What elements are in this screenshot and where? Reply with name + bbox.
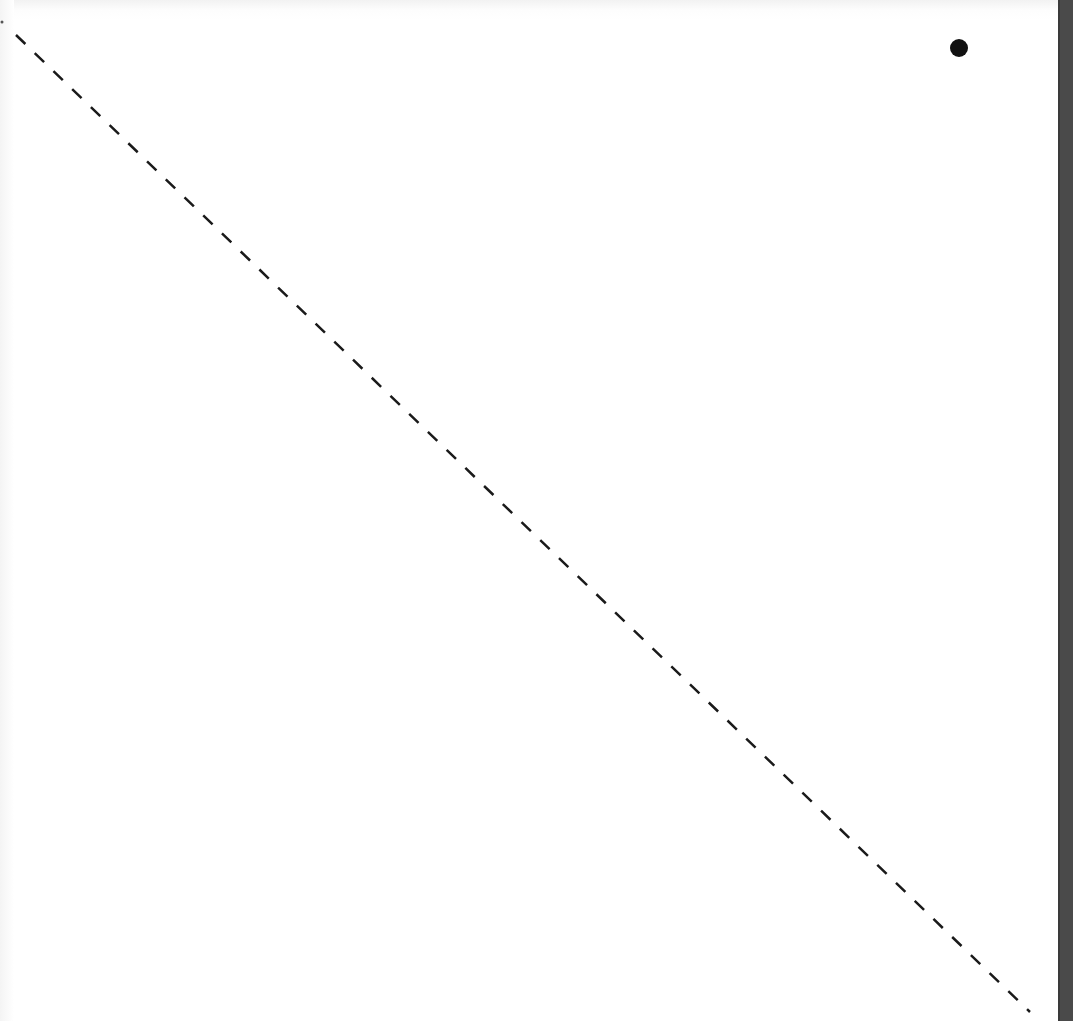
dashed-diagonal-line	[16, 35, 1030, 1012]
small-corner-mark	[1, 21, 4, 24]
black-dot-point	[950, 39, 968, 57]
right-edge-dark-strip	[1058, 0, 1073, 1021]
paper-canvas	[0, 0, 1073, 1021]
diagram-drawing	[0, 0, 1073, 1021]
